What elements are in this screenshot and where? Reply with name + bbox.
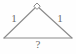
geometry-figure: 1 1 ? (0, 0, 76, 54)
right-side-length-label: 1 (55, 13, 65, 24)
left-side-length-label: 1 (9, 13, 19, 24)
base-length-unknown-label: ? (32, 39, 44, 50)
